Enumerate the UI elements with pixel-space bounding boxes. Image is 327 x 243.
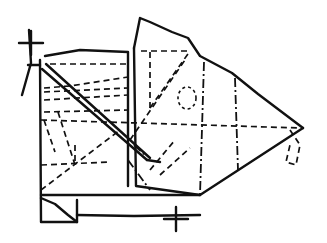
solid-line: [77, 215, 200, 216]
solid-line: [45, 50, 128, 186]
dashed-line: [150, 51, 190, 108]
dotted-circle-icon: [178, 87, 196, 109]
dash-dot-line: [235, 78, 238, 170]
dashed-line: [44, 120, 55, 152]
dash-dot-fold-lines: [128, 62, 238, 195]
solid-lines: [40, 18, 303, 222]
cross-mark-icon: [164, 207, 188, 231]
fold-sketch: [0, 0, 327, 243]
margin-line: [22, 30, 31, 95]
solid-line: [134, 18, 303, 128]
dashed-line: [44, 110, 128, 112]
solid-line: [134, 48, 303, 195]
solid-line: [41, 198, 77, 222]
registration-crosses: [19, 31, 188, 231]
dashed-line: [41, 130, 120, 190]
dashed-line: [41, 120, 300, 128]
dashed-fold-lines: [41, 51, 300, 190]
dashed-line: [130, 60, 185, 140]
dotted-circle-mark: [178, 87, 196, 109]
dashed-line: [44, 88, 128, 92]
diagram-canvas: Hand-drawn fold diagram sketch: [0, 0, 327, 243]
dash-dot-line: [200, 62, 204, 195]
